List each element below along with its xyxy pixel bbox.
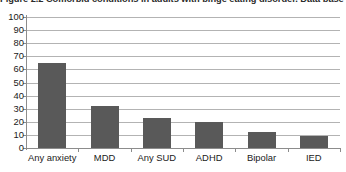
- gridline: [26, 135, 340, 136]
- y-axis-tick-label: 30: [2, 104, 24, 113]
- bar[interactable]: [248, 132, 276, 148]
- chart-plot-area: [26, 17, 340, 148]
- bar[interactable]: [300, 136, 328, 148]
- x-axis-category-label: IED: [306, 153, 322, 162]
- figure-container: Figure 2.2 Comorbid conditions in adults…: [0, 0, 346, 172]
- x-axis-category-label: ADHD: [196, 153, 223, 162]
- y-axis-tick-label: 80: [2, 38, 24, 47]
- x-axis-category-label: Any SUD: [138, 153, 177, 162]
- x-axis-category-label: Any anxiety: [28, 153, 76, 162]
- figure-caption: Figure 2.2 Comorbid conditions in adults…: [0, 0, 346, 7]
- y-axis-tick-label: 90: [2, 25, 24, 34]
- y-axis-tick-label: 20: [2, 117, 24, 126]
- bar[interactable]: [195, 122, 223, 148]
- gridline: [26, 96, 340, 97]
- y-axis-tick-label: 60: [2, 64, 24, 73]
- gridline: [26, 56, 340, 57]
- gridline: [26, 122, 340, 123]
- y-axis-tick-label: 10: [2, 130, 24, 139]
- gridline: [26, 109, 340, 110]
- x-axis-tick-mark: [288, 148, 289, 152]
- bar[interactable]: [91, 106, 119, 148]
- bar[interactable]: [143, 118, 171, 148]
- x-axis-tick-mark: [131, 148, 132, 152]
- x-axis-category-label: Bipolar: [247, 153, 276, 162]
- x-axis-tick-mark: [340, 148, 341, 152]
- gridline: [26, 83, 340, 84]
- y-axis-tick-label: 100: [2, 12, 24, 21]
- x-axis-tick-mark: [235, 148, 236, 152]
- gridline: [26, 69, 340, 70]
- bar[interactable]: [38, 63, 66, 148]
- gridline: [26, 30, 340, 31]
- x-axis-category-label: MDD: [94, 153, 115, 162]
- gridline: [26, 17, 340, 18]
- y-axis-tick-label: 40: [2, 91, 24, 100]
- y-axis-tick-label: 50: [2, 78, 24, 87]
- x-axis-tick-mark: [78, 148, 79, 152]
- y-axis-tick-label: 70: [2, 51, 24, 60]
- x-axis-tick-mark: [183, 148, 184, 152]
- gridline: [26, 43, 340, 44]
- y-axis-tick-label: 0: [2, 143, 24, 152]
